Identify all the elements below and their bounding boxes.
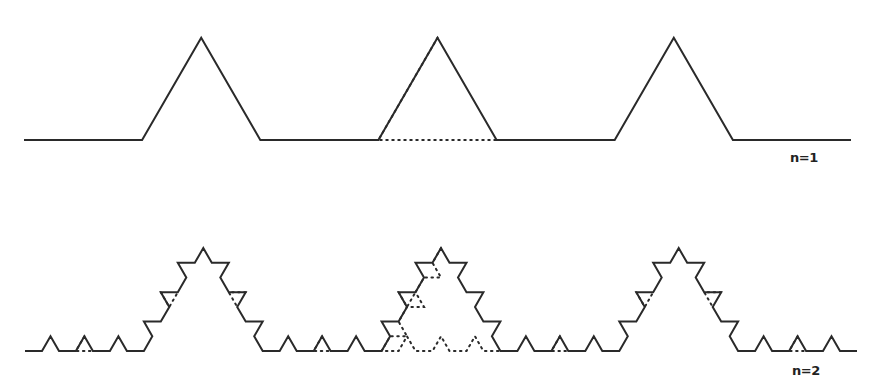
iteration-label-n1: n=1 (790, 150, 818, 165)
iteration-label-n2: n=2 (792, 363, 820, 378)
fractal-curve-n1 (24, 38, 851, 140)
koch-fractal-figure (0, 0, 882, 387)
panel-n1 (24, 38, 851, 140)
panel-n2 (25, 248, 857, 351)
fractal-curve-n2 (25, 248, 857, 351)
dotted-alternate-n1 (378, 38, 496, 140)
